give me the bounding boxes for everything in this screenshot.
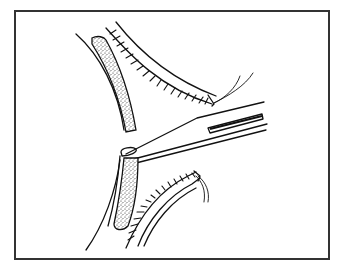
surgical-illustration (0, 0, 342, 263)
upper-sutures (214, 73, 253, 103)
illustration-canvas (0, 0, 342, 263)
upper-stippled-band (92, 37, 136, 132)
lower-outer-wall-line (86, 160, 120, 250)
graft-tip (121, 148, 136, 156)
forceps (126, 102, 267, 164)
